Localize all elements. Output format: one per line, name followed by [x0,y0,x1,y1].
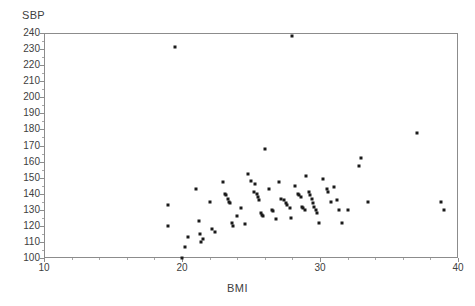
data-point [335,199,338,202]
data-point [288,207,291,210]
data-point [181,257,184,260]
data-point [244,223,247,226]
data-point [317,221,320,224]
data-points-layer [0,0,475,306]
data-point [338,208,341,211]
data-point [440,200,443,203]
scatter-plot-figure: SBP 100110120130140150160170180190200210… [0,0,475,306]
data-point [367,200,370,203]
data-point [167,203,170,206]
x-axis-title: BMI [0,282,475,294]
data-point [208,200,211,203]
data-point [291,35,294,38]
data-point [443,208,446,211]
data-point [201,237,204,240]
data-point [415,131,418,134]
data-point [229,202,232,205]
data-point [183,245,186,248]
data-point [236,215,239,218]
data-point [316,212,319,215]
data-point [305,175,308,178]
data-point [197,220,200,223]
data-point [357,165,360,168]
data-point [198,232,201,235]
data-point [254,183,257,186]
data-point [263,147,266,150]
data-point [267,187,270,190]
data-point [247,173,250,176]
data-point [330,200,333,203]
data-point [200,240,203,243]
data-point [332,186,335,189]
data-point [341,221,344,224]
data-point [360,157,363,160]
data-point [222,181,225,184]
data-point [327,191,330,194]
data-point [262,215,265,218]
data-point [167,224,170,227]
data-point [321,178,324,181]
data-point [274,218,277,221]
data-point [214,231,217,234]
data-point [310,197,313,200]
data-point [232,224,235,227]
data-point [272,210,275,213]
data-point [194,187,197,190]
data-point [290,216,293,219]
data-point [174,46,177,49]
data-point [294,184,297,187]
data-point [258,199,261,202]
data-point [303,208,306,211]
data-point [277,181,280,184]
data-point [240,207,243,210]
data-point [299,195,302,198]
data-point [186,236,189,239]
data-point [346,208,349,211]
data-point [250,179,253,182]
